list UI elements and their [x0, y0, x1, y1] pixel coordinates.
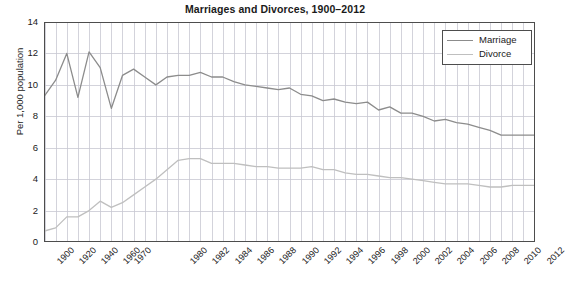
legend-swatch-marriage [447, 40, 473, 41]
x-tick-label: 2010 [522, 245, 543, 266]
x-tick-label: 1994 [344, 245, 365, 266]
horizontal-gridlines [44, 54, 535, 212]
x-tick-label: 2006 [478, 245, 499, 266]
chart-legend: Marriage Divorce [442, 30, 532, 65]
x-tick-label: 1990 [299, 245, 320, 266]
x-tick-label: 1996 [366, 245, 387, 266]
legend-item-divorce: Divorce [447, 47, 527, 61]
x-tick-label: 2000 [411, 245, 432, 266]
x-tick-label: 1940 [99, 245, 120, 266]
y-tick-label: 2 [10, 205, 38, 216]
y-tick-label: 8 [10, 110, 38, 121]
x-tick-label: 2008 [500, 245, 521, 266]
legend-label-divorce: Divorce [479, 49, 511, 59]
y-tick-label: 4 [10, 173, 38, 184]
x-tick-label: 1920 [77, 245, 98, 266]
y-tick-label: 12 [10, 47, 38, 58]
y-tick-label: 14 [10, 16, 38, 27]
x-tick-label: 1982 [210, 245, 231, 266]
x-tick-label: 1998 [388, 245, 409, 266]
legend-label-marriage: Marriage [479, 35, 517, 45]
legend-swatch-divorce [447, 54, 473, 55]
chart-title: Marriages and Divorces, 1900–2012 [0, 3, 550, 15]
x-tick-label: 2012 [544, 245, 565, 266]
legend-item-marriage: Marriage [447, 33, 527, 47]
data-series-lines [45, 52, 535, 231]
x-tick-label: 1980 [188, 245, 209, 266]
x-tick-label: 1988 [277, 245, 298, 266]
x-tick-label: 1984 [233, 245, 254, 266]
y-tick-label: 0 [10, 236, 38, 247]
x-tick-label: 2004 [455, 245, 476, 266]
x-tick-label: 1900 [54, 245, 75, 266]
y-tick-label: 6 [10, 142, 38, 153]
x-tick-label: 2002 [433, 245, 454, 266]
series-line-divorce [45, 159, 535, 231]
x-tick-label: 1992 [322, 245, 343, 266]
y-tick-label: 10 [10, 79, 38, 90]
x-tick-label: 1986 [255, 245, 276, 266]
